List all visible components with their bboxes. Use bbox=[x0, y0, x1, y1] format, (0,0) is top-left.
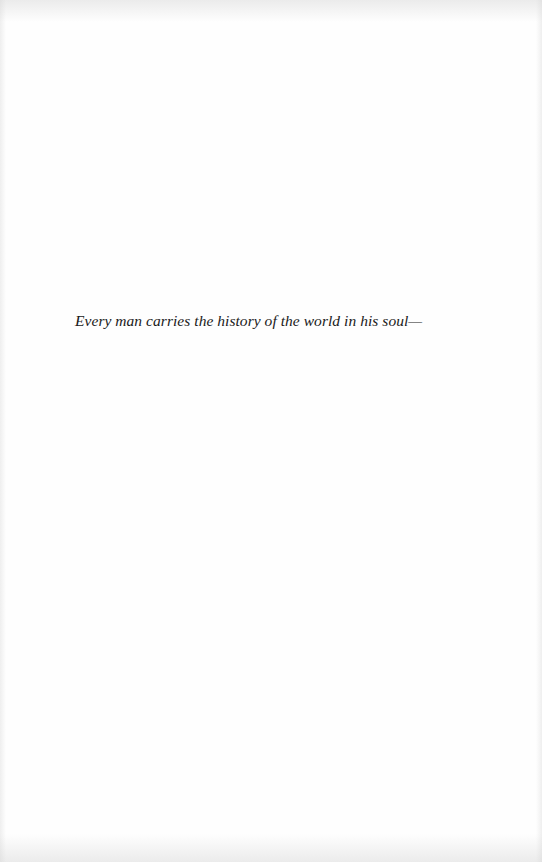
page-edge-right bbox=[536, 0, 542, 862]
page-edge-top bbox=[0, 0, 542, 22]
epigraph-text: Every man carries the history of the wor… bbox=[75, 312, 422, 330]
book-page: Every man carries the history of the wor… bbox=[0, 0, 542, 862]
page-edge-bottom bbox=[0, 834, 542, 862]
page-edge-left bbox=[0, 0, 6, 862]
